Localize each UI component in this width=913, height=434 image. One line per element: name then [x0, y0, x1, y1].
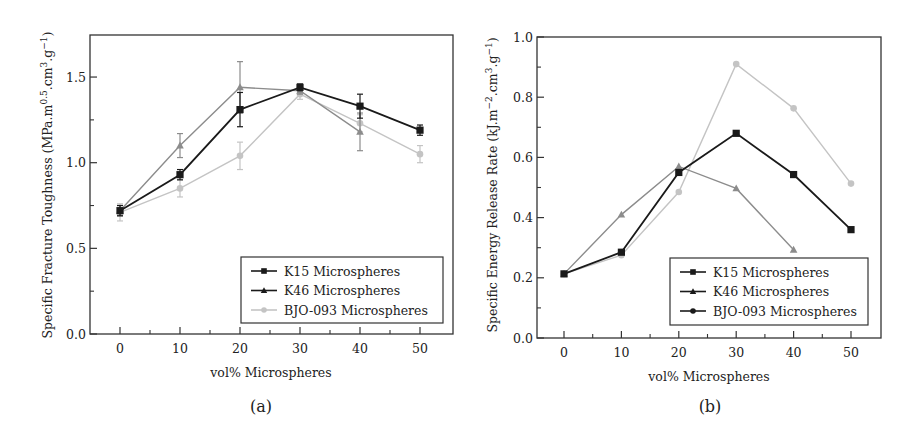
circle-marker — [848, 180, 855, 187]
circle-marker — [733, 61, 740, 68]
square-marker — [618, 249, 625, 256]
legend-label: K46 Microspheres — [713, 284, 829, 299]
y-axis-title-text: ) — [485, 37, 500, 42]
square-marker — [847, 226, 854, 233]
x-tick-label: 10 — [172, 341, 188, 356]
circle-marker — [417, 151, 424, 158]
y-tick-label: 0.8 — [513, 90, 533, 105]
y-axis-title-text: ) — [40, 32, 55, 37]
legend-label: K15 Microspheres — [713, 265, 829, 280]
legend: K15 MicrospheresK46 MicrospheresBJO-093 … — [241, 257, 443, 323]
legend-label: BJO-093 Microspheres — [713, 304, 857, 319]
circle-marker — [177, 185, 184, 192]
y-axis-title-superscript: −2 — [484, 96, 494, 109]
y-tick-label: 0.6 — [513, 150, 533, 165]
legend-label: K15 Microspheres — [284, 264, 400, 279]
y-tick-label: 0.5 — [66, 241, 86, 256]
x-tick-label: 30 — [728, 345, 744, 360]
y-tick-label: 0.2 — [513, 270, 533, 285]
x-tick-label: 20 — [232, 341, 248, 356]
y-axis-title-superscript: −1 — [39, 36, 49, 49]
series-k15-microspheres — [560, 130, 854, 278]
series-bjo-093-microspheres — [117, 89, 424, 221]
square-marker — [176, 171, 183, 178]
legend-label: BJO-093 Microspheres — [284, 303, 428, 318]
y-axis-title-text: Specific Energy Release Rate (kJ.m — [485, 109, 500, 332]
square-marker — [560, 270, 567, 277]
x-tick-label: 0 — [116, 341, 124, 356]
square-marker — [675, 169, 682, 176]
square-marker — [296, 84, 303, 91]
x-axis-title: vol% Microspheres — [647, 369, 769, 384]
x-tick-label: 30 — [292, 341, 308, 356]
circle-marker — [237, 153, 244, 160]
series-line — [120, 87, 420, 210]
legend-label: K46 Microspheres — [284, 283, 400, 298]
square-marker — [733, 130, 740, 137]
y-axis-title-superscript: −1 — [484, 42, 494, 55]
y-axis-title-superscript: 0.5 — [39, 90, 49, 105]
circle-icon — [690, 308, 696, 314]
square-icon — [690, 269, 696, 275]
square-marker — [116, 207, 123, 214]
y-tick-label: 1.0 — [513, 30, 533, 45]
y-axis-title: Specific Fracture Toughness (MPa.m0.5.cm… — [39, 32, 55, 339]
chart-panel-b: 010203040500.00.20.40.60.81.0vol% Micros… — [484, 30, 881, 385]
y-axis-title: Specific Energy Release Rate (kJ.m−2.cm3… — [484, 37, 500, 332]
y-axis-title-text: .cm — [40, 67, 55, 90]
y-tick-label: 1.5 — [66, 70, 86, 85]
x-tick-label: 20 — [671, 345, 687, 360]
y-tick-label: 0.0 — [66, 327, 86, 342]
y-axis-title-text: .cm — [485, 73, 500, 96]
x-tick-label: 50 — [843, 345, 859, 360]
series-line — [564, 133, 851, 274]
y-axis-title-text: .g — [40, 50, 55, 62]
series-line — [564, 64, 851, 274]
triangle-marker — [675, 162, 683, 169]
chart-panel-a: 010203040500.00.51.01.5vol% Microspheres… — [39, 32, 453, 380]
square-icon — [261, 268, 267, 274]
x-tick-label: 40 — [352, 341, 368, 356]
circle-marker — [676, 189, 683, 196]
x-tick-label: 50 — [412, 341, 428, 356]
panel-label-b: (b) — [699, 397, 722, 416]
square-marker — [236, 106, 243, 113]
y-tick-label: 1.0 — [66, 155, 86, 170]
circle-icon — [261, 307, 267, 313]
y-tick-label: 0.0 — [513, 331, 533, 346]
x-tick-label: 10 — [613, 345, 629, 360]
legend: K15 MicrospheresK46 MicrospheresBJO-093 … — [670, 258, 868, 325]
figure: 010203040500.00.51.01.5vol% Microspheres… — [0, 0, 913, 434]
square-marker — [416, 127, 423, 134]
x-axis-title: vol% Microspheres — [209, 365, 331, 380]
y-tick-label: 0.4 — [513, 210, 533, 225]
square-marker — [356, 103, 363, 110]
series-bjo-093-microspheres — [561, 61, 855, 277]
x-tick-label: 40 — [786, 345, 802, 360]
panel-label-a: (a) — [250, 397, 272, 416]
x-tick-label: 0 — [560, 345, 568, 360]
y-axis-title-text: .g — [485, 56, 500, 68]
series-k46-microspheres — [116, 62, 364, 216]
circle-marker — [790, 105, 797, 112]
y-axis-title-text: Specific Fracture Toughness (MPa.m — [40, 104, 55, 338]
square-marker — [790, 171, 797, 178]
